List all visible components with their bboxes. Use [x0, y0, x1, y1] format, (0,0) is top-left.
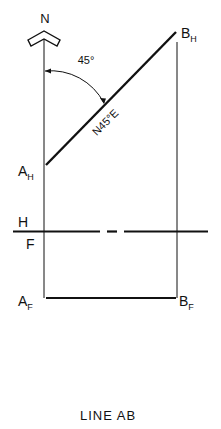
arc-arrowhead-start-icon	[45, 69, 51, 74]
line-ab-top-view	[46, 32, 176, 165]
orthographic-projection-diagram: N 45° N45°E BH AH H F AF BF LINE AB	[0, 0, 221, 429]
point-a-f-label: AF	[18, 293, 33, 312]
point-b-h-label: BH	[181, 25, 197, 44]
fold-label-h: H	[18, 214, 28, 230]
bearing-angle-arc	[45, 71, 104, 103]
diagram-title: LINE AB	[80, 408, 136, 423]
north-label: N	[40, 11, 49, 26]
point-a-h-label: AH	[18, 163, 34, 182]
angle-label: 45°	[78, 54, 95, 66]
fold-label-f: F	[26, 236, 35, 252]
bearing-label: N45°E	[90, 107, 121, 138]
point-b-f-label: BF	[179, 293, 194, 312]
